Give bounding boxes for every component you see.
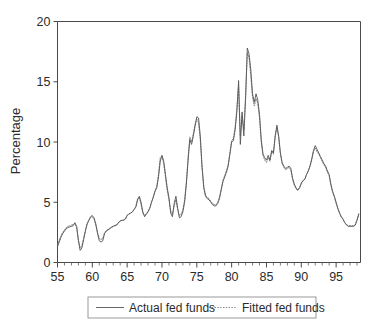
x-tick-label-65: 65 bbox=[120, 270, 134, 284]
y-axis-ticks bbox=[54, 22, 58, 263]
legend-label-actual: Actual fed funds bbox=[129, 301, 215, 315]
chart-canvas: Percentage 05101520 556065707580859095 A… bbox=[0, 0, 375, 326]
y-axis-tick-labels: 05101520 bbox=[37, 15, 51, 270]
y-tick-label-5: 5 bbox=[44, 196, 51, 210]
y-tick-label-20: 20 bbox=[37, 15, 51, 29]
x-tick-label-90: 90 bbox=[294, 270, 308, 284]
chart-legend: Actual fed funds Fitted fed funds bbox=[88, 297, 325, 318]
x-tick-label-85: 85 bbox=[260, 270, 274, 284]
y-tick-label-10: 10 bbox=[37, 136, 51, 150]
legend-label-fitted: Fitted fed funds bbox=[242, 301, 325, 315]
x-tick-label-95: 95 bbox=[329, 270, 343, 284]
x-tick-label-70: 70 bbox=[155, 270, 169, 284]
x-tick-label-55: 55 bbox=[51, 270, 65, 284]
x-tick-label-75: 75 bbox=[190, 270, 204, 284]
y-tick-label-15: 15 bbox=[37, 75, 51, 89]
x-axis-tick-labels: 556065707580859095 bbox=[51, 270, 344, 284]
fed-funds-chart: Percentage 05101520 556065707580859095 A… bbox=[0, 0, 375, 326]
series-line-actual-fed-funds bbox=[58, 48, 359, 250]
y-axis-label: Percentage bbox=[8, 108, 23, 175]
plot-frame bbox=[58, 22, 361, 263]
y-tick-label-0: 0 bbox=[44, 256, 51, 270]
x-tick-label-80: 80 bbox=[225, 270, 239, 284]
x-tick-label-60: 60 bbox=[85, 270, 99, 284]
